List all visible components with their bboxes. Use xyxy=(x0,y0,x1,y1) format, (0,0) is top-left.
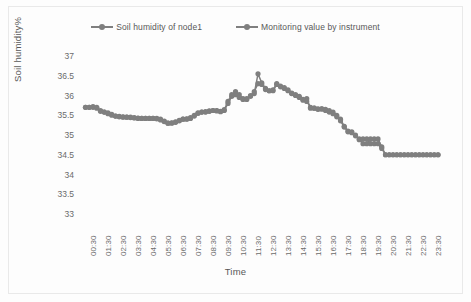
y-axis-tick-labels: 3333.53434.53535.53636.537 xyxy=(38,56,74,214)
x-axis-title: Time xyxy=(0,266,471,277)
data-point-marker xyxy=(364,136,369,141)
x-tick-label: 05:30 xyxy=(164,235,173,256)
y-tick-label: 34.5 xyxy=(40,151,74,160)
x-tick-label: 15:30 xyxy=(314,235,323,256)
legend-marker-icon xyxy=(91,23,113,31)
y-tick-label: 37 xyxy=(40,52,74,61)
x-tick-label: 02:30 xyxy=(119,235,128,256)
x-tick-label: 07:30 xyxy=(194,235,203,256)
x-tick-label: 06:30 xyxy=(179,235,188,256)
data-point-marker xyxy=(225,99,230,104)
x-tick-label: 04:30 xyxy=(149,235,158,256)
data-point-marker xyxy=(304,99,309,104)
x-tick-label: 08:30 xyxy=(209,235,218,256)
data-point-marker xyxy=(334,114,339,119)
x-tick-label: 18:30 xyxy=(359,235,368,256)
y-tick-label: 33.5 xyxy=(40,190,74,199)
x-tick-label: 16:30 xyxy=(329,235,338,256)
data-point-marker xyxy=(375,141,380,146)
legend-label-node1: Soil humidity of node1 xyxy=(116,22,202,32)
x-axis-tick-labels: 00:3001:3002:3003:3004:3005:3006:3007:30… xyxy=(78,216,438,262)
x-tick-label: 23:30 xyxy=(434,235,443,256)
x-tick-label: 14:30 xyxy=(299,235,308,256)
y-tick-label: 35.5 xyxy=(40,111,74,120)
y-tick-label: 36.5 xyxy=(40,72,74,81)
x-tick-label: 17:30 xyxy=(344,235,353,256)
data-point-marker xyxy=(435,152,440,157)
data-point-marker xyxy=(379,146,384,151)
x-tick-label: 09:30 xyxy=(224,235,233,256)
x-tick-label: 22:30 xyxy=(419,235,428,256)
y-tick-label: 33 xyxy=(40,210,74,219)
series-instrument xyxy=(83,81,441,157)
data-point-marker xyxy=(248,93,253,98)
x-tick-label: 19:30 xyxy=(374,235,383,256)
y-tick-label: 34 xyxy=(40,171,74,180)
x-tick-label: 21:30 xyxy=(404,235,413,256)
x-tick-label: 01:30 xyxy=(104,235,113,256)
data-point-marker xyxy=(270,87,275,92)
x-tick-label: 03:30 xyxy=(134,235,143,256)
legend-item-node1: Soil humidity of node1 xyxy=(91,22,202,32)
legend-item-instrument: Monitoring value by instrument xyxy=(236,22,380,32)
x-tick-label: 13:30 xyxy=(284,235,293,256)
data-point-marker xyxy=(255,71,260,76)
x-tick-label: 12:30 xyxy=(269,235,278,256)
data-point-marker xyxy=(222,107,227,112)
y-tick-label: 36 xyxy=(40,92,74,101)
x-tick-label: 10:30 xyxy=(239,235,248,256)
x-tick-label: 00:30 xyxy=(89,235,98,256)
data-point-marker xyxy=(259,82,264,87)
data-point-marker xyxy=(338,118,343,123)
soil-humidity-chart: Soil humidity of node1 Monitoring value … xyxy=(0,0,471,302)
x-tick-label: 11:30 xyxy=(254,236,263,256)
plot-svg xyxy=(78,56,438,214)
data-point-marker xyxy=(252,89,257,94)
data-point-marker xyxy=(375,136,380,141)
plot-area xyxy=(78,56,438,214)
data-point-marker xyxy=(342,125,347,130)
y-axis-title: Soil humidity% xyxy=(12,0,23,82)
legend-marker-icon xyxy=(236,23,258,31)
x-tick-label: 20:30 xyxy=(389,235,398,256)
chart-legend: Soil humidity of node1 Monitoring value … xyxy=(0,22,471,32)
data-point-marker xyxy=(353,133,358,138)
legend-label-instrument: Monitoring value by instrument xyxy=(261,22,380,32)
y-tick-label: 35 xyxy=(40,131,74,140)
